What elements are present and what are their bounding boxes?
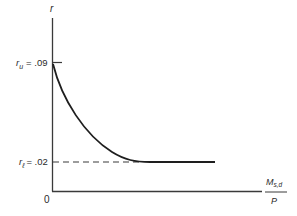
rl-label: rℓ= .02 <box>19 156 48 169</box>
liquidity-trap-chart: r ru= .09 rℓ= .02 0 Ms,d P <box>0 0 297 216</box>
x-axis-label-denominator: P <box>271 196 277 206</box>
ru-label: ru= .09 <box>16 57 47 70</box>
y-axis-label: r <box>50 3 54 14</box>
origin-label: 0 <box>44 194 50 205</box>
x-axis-label-numerator: Ms,d <box>266 177 283 188</box>
interest-rate-curve <box>53 64 215 162</box>
